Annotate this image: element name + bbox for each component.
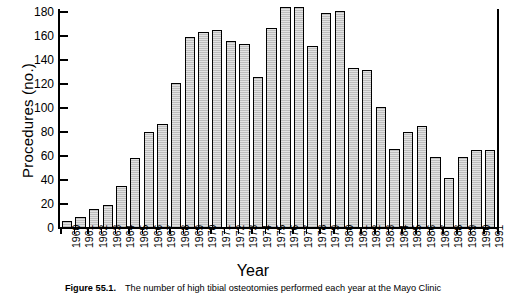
bar — [376, 107, 386, 228]
x-axis-tick-label: 1975 — [276, 214, 287, 248]
x-axis-tick-label: 1976 — [289, 214, 300, 248]
x-axis-tick-label: 1985 — [412, 214, 423, 248]
y-axis-tick-label: 0 — [10, 222, 54, 234]
x-axis-tick-label: 1983 — [385, 214, 396, 248]
y-axis-tick-label: 120 — [10, 78, 54, 90]
y-axis-tick-label: 100 — [10, 102, 54, 114]
bar — [294, 7, 304, 228]
figure-container: Procedures (no.) 02040608010012014016018… — [0, 0, 506, 296]
x-axis-tick-label: 1968 — [180, 214, 191, 248]
x-axis-tick-label: 1967 — [166, 214, 177, 248]
figure-caption-label: Figure 55.1. — [65, 283, 116, 293]
bar — [348, 68, 358, 228]
y-axis-tick-value: 40 — [14, 174, 54, 186]
y-axis-tick-value: 20 — [14, 198, 54, 210]
y-axis-tick-value: 60 — [14, 150, 54, 162]
x-axis-tick-label: 1991 — [494, 214, 505, 248]
bar — [321, 13, 331, 228]
bar — [157, 124, 167, 228]
x-axis-tick-label: 1987 — [440, 214, 451, 248]
x-axis-tick-label: 1964 — [125, 214, 136, 248]
x-axis-tick-label: 1982 — [371, 214, 382, 248]
y-axis-tick-label: 40 — [10, 174, 54, 186]
x-axis-tick-label: 1979 — [330, 214, 341, 248]
bar — [335, 11, 345, 228]
bar — [266, 28, 276, 228]
y-axis-tick-value: 100 — [14, 102, 54, 114]
y-axis-tick-label: 160 — [10, 30, 54, 42]
x-axis-tick-label: 1986 — [426, 214, 437, 248]
bar — [212, 30, 222, 228]
bar — [185, 37, 195, 228]
y-axis-tick-value: 160 — [14, 30, 54, 42]
x-axis-tick-label: 1972 — [235, 214, 246, 248]
y-axis-tick-label: 20 — [10, 198, 54, 210]
x-axis-tick-label: 1981 — [358, 214, 369, 248]
x-axis-tick-label: 1980 — [344, 214, 355, 248]
x-axis-tick-label: 1977 — [303, 214, 314, 248]
figure-caption-text: The number of high tibial osteotomies pe… — [125, 283, 441, 293]
y-axis-tick-value: 120 — [14, 78, 54, 90]
x-axis-tick-label: 1984 — [399, 214, 410, 248]
x-axis-tick-label: 1966 — [153, 214, 164, 248]
x-axis-tick-label: 1978 — [317, 214, 328, 248]
bar — [280, 7, 290, 228]
y-axis-tick-value: 140 — [14, 54, 54, 66]
x-axis-tick-label: 1973 — [248, 214, 259, 248]
y-axis-tick-value: 180 — [14, 6, 54, 18]
figure-caption: Figure 55.1.The number of high tibial os… — [0, 283, 506, 294]
x-axis-tick-label: 1971 — [221, 214, 232, 248]
bar — [253, 77, 263, 228]
x-axis-title: Year — [0, 262, 506, 280]
y-axis-tick-value: 80 — [14, 126, 54, 138]
x-axis-tick-label: 1970 — [207, 214, 218, 248]
x-axis-tick-label: 1988 — [453, 214, 464, 248]
x-axis-tick-label: 1960 — [71, 214, 82, 248]
y-axis-tick-value: 0 — [14, 222, 54, 234]
y-axis-tick-label: 140 — [10, 54, 54, 66]
x-axis-tick-label: 1962 — [98, 214, 109, 248]
bar — [226, 41, 236, 228]
y-axis-tick-label: 80 — [10, 126, 54, 138]
x-axis-tick-label: 1961 — [84, 214, 95, 248]
bar — [417, 126, 427, 228]
plot-right-border — [497, 9, 499, 229]
bar — [239, 44, 249, 228]
bar — [362, 70, 372, 228]
y-axis-tick-label: 180 — [10, 6, 54, 18]
x-axis-tick-label: 1974 — [262, 214, 273, 248]
x-axis-tick-label: 1963 — [112, 214, 123, 248]
x-axis-tick-label: 1969 — [194, 214, 205, 248]
bar-series — [60, 9, 497, 228]
x-axis-tick-label: 1965 — [139, 214, 150, 248]
y-axis-tick-label: 60 — [10, 150, 54, 162]
bar — [171, 83, 181, 228]
x-axis-tick-label: 1990 — [481, 214, 492, 248]
x-axis-tick-label: 1989 — [467, 214, 478, 248]
bar — [198, 32, 208, 228]
bar — [307, 46, 317, 228]
